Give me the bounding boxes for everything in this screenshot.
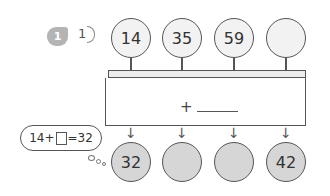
function-machine-box bbox=[105, 78, 306, 126]
empty-square-icon bbox=[56, 132, 67, 145]
output-circle-1: 32 bbox=[111, 142, 151, 182]
arrow-down-icon: ↓ bbox=[176, 126, 188, 140]
thought-dot-icon bbox=[88, 155, 95, 161]
thought-dot-icon bbox=[96, 159, 101, 164]
machine-box-lid bbox=[108, 70, 306, 78]
arrow-down-icon: ↓ bbox=[228, 126, 240, 140]
input-circle-1: 14 bbox=[111, 18, 151, 58]
output-circle-4: 42 bbox=[266, 142, 306, 182]
thought-dot-icon bbox=[102, 162, 106, 166]
output-circle-2-blank[interactable] bbox=[162, 142, 202, 182]
arrow-down-icon: ↓ bbox=[280, 126, 292, 140]
output-circle-3-blank[interactable] bbox=[214, 142, 254, 182]
operation-blank-line[interactable] bbox=[197, 111, 238, 112]
input-circle-3: 59 bbox=[214, 18, 254, 58]
operation-symbol: + bbox=[180, 98, 193, 116]
sub-question-label: 1 bbox=[78, 26, 95, 43]
input-circle-4-blank[interactable] bbox=[266, 18, 306, 58]
problem-number: 1 bbox=[54, 30, 62, 43]
problem-number-badge: 1 bbox=[47, 27, 68, 46]
paren-icon bbox=[87, 26, 95, 43]
hint-thought-bubble: 14+=32 bbox=[20, 125, 102, 151]
arrow-down-icon: ↓ bbox=[125, 126, 137, 140]
input-circle-2: 35 bbox=[162, 18, 202, 58]
